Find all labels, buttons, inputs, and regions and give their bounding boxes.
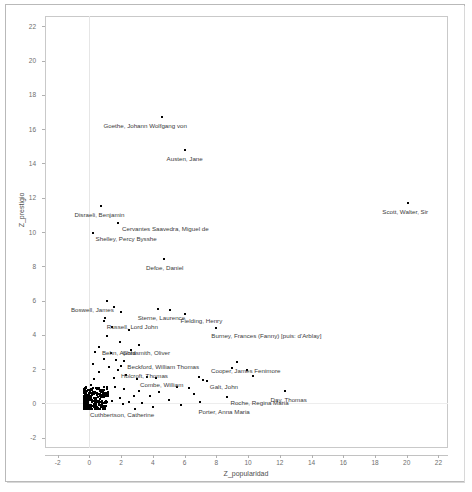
y-tick-mark [42,266,45,267]
data-point-labeled [138,344,140,346]
data-point [103,389,105,391]
data-point [85,394,87,396]
x-axis-line [45,455,448,456]
point-label: Galt, John [210,383,238,390]
plot-area [45,16,448,448]
y-tick-mark [42,403,45,404]
point-label: Holcroft, Thomas [121,372,168,379]
y-tick-mark [42,61,45,62]
data-point [115,359,117,361]
data-point-labeled [284,390,286,392]
data-point [119,397,121,399]
data-point-labeled [199,401,201,403]
data-point-labeled [184,149,186,151]
data-point-labeled [407,202,409,204]
data-point [169,309,171,311]
data-point-labeled [157,308,159,310]
data-point [90,384,92,386]
x-tick-label: 14 [302,459,322,466]
x-tick-mark [375,455,376,458]
data-point [111,400,113,402]
x-tick-label: -2 [48,459,68,466]
data-point [119,341,121,343]
y-tick-label: -2 [20,434,36,441]
y-tick-label: 6 [20,297,36,304]
y-axis-title: Z_prestigio [18,170,25,250]
data-point [104,392,106,394]
x-tick-label: 10 [238,459,258,466]
data-point-labeled [215,327,217,329]
data-point [152,406,154,408]
x-tick-label: 16 [333,459,353,466]
x-tick-label: 0 [79,459,99,466]
data-point [103,396,105,398]
data-point [105,400,107,402]
x-axis-title: Z_popularidad [146,470,346,477]
data-point [103,402,105,404]
data-point-labeled [100,205,102,207]
point-label: Cooper, James Fenimore [211,367,280,374]
x-tick-mark [407,455,408,458]
x-tick-label: 12 [270,459,290,466]
data-point [138,390,140,392]
y-tick-label: 22 [20,23,36,30]
x-tick-label: 18 [365,459,385,466]
y-tick-mark [42,301,45,302]
data-point [95,403,97,405]
data-point [89,404,91,406]
point-label: Combe, William [140,381,183,388]
y-tick-mark [42,369,45,370]
data-point [105,395,107,397]
data-point [104,317,106,319]
point-label: Beckford, William Thomas [127,363,199,370]
x-tick-mark [280,455,281,458]
y-tick-mark [42,26,45,27]
data-point [180,404,182,406]
data-point-labeled [92,232,94,234]
y-tick-mark [42,198,45,199]
x-tick-label: 2 [111,459,131,466]
y-tick-label: 16 [20,126,36,133]
x-tick-label: 6 [175,459,195,466]
y-tick-mark [42,438,45,439]
data-point-labeled [236,361,238,363]
data-point [93,378,95,380]
point-label: Sterne, Laurence [138,314,185,321]
data-point-labeled [117,369,119,371]
point-label: Goldsmith, Oliver [123,349,170,356]
point-label: Cervantes Saavedra, Miguel de [122,225,209,232]
data-point [101,406,103,408]
data-point [122,403,124,405]
y-tick-label: 20 [20,57,36,64]
data-point [141,402,143,404]
y-tick-mark [42,163,45,164]
data-point [198,376,200,378]
data-point-labeled [161,116,163,118]
data-point [168,399,170,401]
x-tick-mark [312,455,313,458]
data-point-labeled [103,320,105,322]
y-tick-label: 10 [20,229,36,236]
y-tick-label: 12 [20,194,36,201]
x-tick-mark [248,455,249,458]
x-tick-label: 20 [397,459,417,466]
x-tick-mark [121,455,122,458]
data-point [84,407,86,409]
data-point [90,388,92,390]
point-label: Cuthbertson, Catherine [90,411,154,418]
data-point [202,379,204,381]
point-label: Porter, Anna Maria [198,408,249,415]
data-point [89,395,91,397]
data-point [92,363,94,365]
y-tick-mark [42,95,45,96]
data-point-labeled [226,396,228,398]
data-point [86,398,88,400]
data-point-labeled [101,402,103,404]
data-point [98,404,100,406]
data-point-labeled [123,360,125,362]
y-tick-mark [42,129,45,130]
y-tick-mark [42,232,45,233]
point-label: Defoe, Daniel [146,264,184,271]
data-point [108,366,110,368]
data-point [193,393,195,395]
